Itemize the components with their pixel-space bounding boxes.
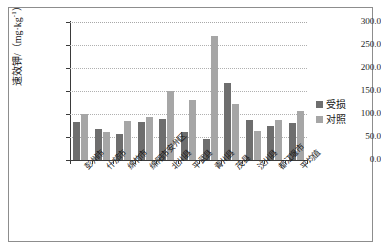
x-axis-tick-mark [242, 160, 243, 164]
legend-label: 受损 [326, 99, 346, 110]
bar-group [224, 22, 239, 160]
bar-group [116, 22, 131, 160]
legend-item-damaged[interactable]: 受损 [316, 97, 366, 112]
figure-container: 速效钾/（mg·kg-1） 300.0250.0200.0150.0100.05… [0, 0, 381, 250]
x-axis-tick-mark [178, 160, 179, 164]
x-axis-tick-mark [113, 160, 114, 164]
bar-group [138, 22, 153, 160]
bar-group [267, 22, 282, 160]
y-axis-tick-label: 0.0 [345, 155, 381, 164]
bar-control [254, 131, 261, 160]
bar-damaged [73, 122, 80, 160]
x-axis-tick-mark [199, 160, 200, 164]
y-axis-title-main: 速效钾/（mg·kg [12, 17, 23, 86]
x-axis-tick-mark [92, 160, 93, 164]
y-axis-title: 速效钾/（mg·kg-1） [8, 0, 23, 104]
bar-group [246, 22, 261, 160]
y-axis-tick-label: 50.0 [345, 132, 381, 141]
y-axis-title-tail: ） [12, 1, 23, 11]
x-axis-tick-mark [70, 160, 71, 164]
y-axis-tick-label: 150.0 [345, 86, 381, 95]
bar-group [95, 22, 110, 160]
bar-control [81, 114, 88, 160]
legend-label: 对照 [326, 114, 346, 125]
x-axis-tick-mark [307, 160, 308, 164]
x-axis-tick-mark [285, 160, 286, 164]
bar-control [211, 36, 218, 160]
x-axis-tick-mark [135, 160, 136, 164]
y-axis-tick-label: 300.0 [345, 17, 381, 26]
chart-legend: 受损对照 [316, 97, 366, 127]
bar-group [203, 22, 218, 160]
y-axis-tick-label: 200.0 [345, 63, 381, 72]
x-axis-tick-mark [221, 160, 222, 164]
x-axis-tick-mark [264, 160, 265, 164]
plot-area [70, 22, 307, 160]
y-axis-tick-label: 250.0 [345, 40, 381, 49]
bar-group [73, 22, 88, 160]
legend-swatch-icon [316, 101, 323, 108]
legend-item-control[interactable]: 对照 [316, 112, 366, 127]
bar-damaged [246, 120, 253, 160]
legend-swatch-icon [316, 116, 323, 123]
bar-group [289, 22, 304, 160]
x-axis-tick-mark [156, 160, 157, 164]
y-axis-title-superscript: -1 [10, 11, 18, 17]
